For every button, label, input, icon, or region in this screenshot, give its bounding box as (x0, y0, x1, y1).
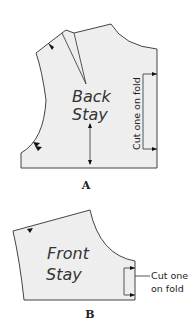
piece-name-b-line1: Front (47, 244, 90, 263)
fold-note-a: Cut one on fold (131, 77, 142, 150)
piece-name-a-line2: Stay (72, 105, 108, 124)
fold-note-b-line2: on fold (151, 283, 184, 294)
figure-label-a: A (81, 179, 91, 192)
pattern-diagram: Cut one on fold Back Stay A Front Stay C… (0, 0, 191, 325)
fold-note-b-line1: Cut one (151, 270, 188, 281)
front-stay-piece: Front Stay Cut one on fold (13, 210, 188, 300)
piece-name-b-line2: Stay (46, 265, 82, 284)
back-stay-piece: Cut one on fold Back Stay (21, 24, 157, 168)
piece-name-a-line1: Back (72, 87, 112, 106)
figure-label-b: B (85, 308, 94, 321)
